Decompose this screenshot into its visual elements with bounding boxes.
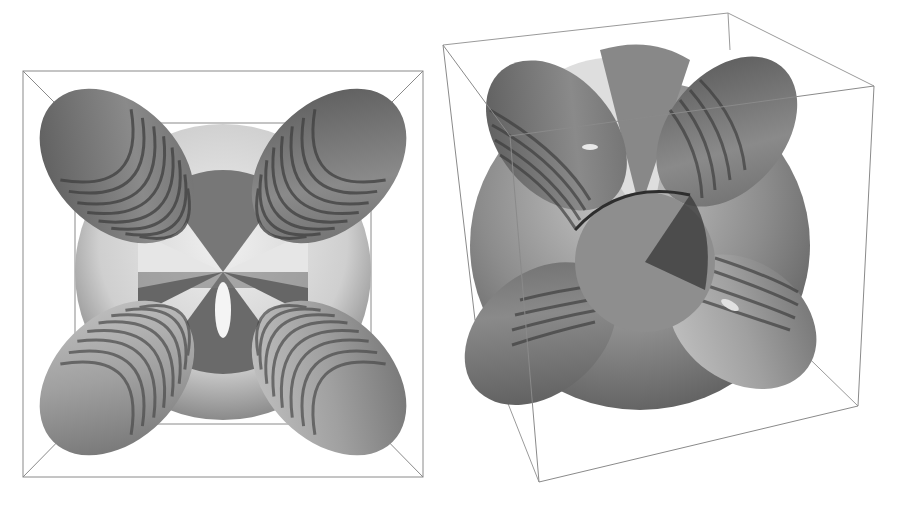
surface-3d — [437, 29, 843, 434]
top-view-panel — [9, 58, 436, 485]
figure — [0, 0, 899, 513]
perspective-view-panel — [437, 13, 874, 482]
